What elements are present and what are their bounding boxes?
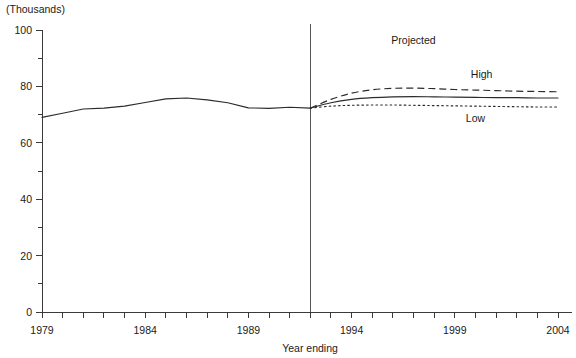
series-line-middle	[310, 97, 558, 109]
x-axis-tick-label: 1979	[30, 324, 54, 336]
y-axis-tick-labels: 020406080100	[14, 24, 32, 318]
series-line-actual	[42, 98, 310, 117]
y-axis-tick-label: 0	[26, 306, 32, 318]
x-axis-title: Year ending	[282, 342, 338, 354]
y-axis-tick-label: 80	[20, 80, 32, 92]
x-axis-tick-label: 1984	[134, 324, 158, 336]
projected-annotation: Projected	[391, 34, 436, 46]
y-axis-ticks	[36, 30, 42, 312]
y-axis-tick-label: 100	[14, 24, 32, 36]
x-axis-tick-labels: 197919841989199419992004	[30, 324, 570, 336]
x-axis-tick-label: 1989	[237, 324, 261, 336]
line-chart: (Thousands) 020406080100 197919841989199…	[0, 0, 576, 358]
chart-container: (Thousands) 020406080100 197919841989199…	[0, 0, 576, 358]
x-axis-tick-label: 2004	[546, 324, 570, 336]
y-axis-tick-label: 40	[20, 193, 32, 205]
x-axis-tick-label: 1999	[443, 324, 467, 336]
y-axis-unit-label: (Thousands)	[6, 3, 65, 15]
y-axis-tick-label: 20	[20, 250, 32, 262]
low-series-label: Low	[466, 112, 486, 124]
x-axis-ticks	[42, 312, 558, 318]
series-line-low	[310, 105, 558, 108]
high-series-label: High	[471, 68, 493, 80]
y-axis-tick-label: 60	[20, 137, 32, 149]
x-axis-tick-label: 1994	[340, 324, 364, 336]
